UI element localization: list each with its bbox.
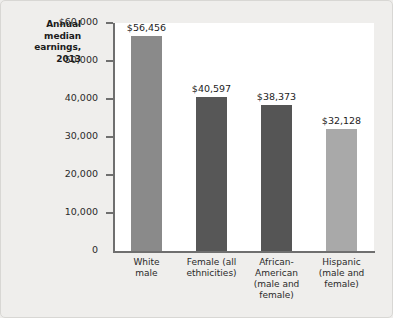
y-tick-label: 20,000 xyxy=(6,169,98,179)
y-tick-label: 0 xyxy=(6,245,98,255)
x-category-label-line: American xyxy=(241,268,313,279)
bar-value-label: $56,456 xyxy=(107,22,187,33)
x-category-label: Female (allethnicities) xyxy=(176,257,248,279)
bar xyxy=(196,97,227,251)
y-tick-mark xyxy=(106,60,113,62)
bar xyxy=(261,105,292,251)
x-category-label-line: Female (all xyxy=(176,257,248,268)
x-category-label: African-American(male andfemale) xyxy=(241,257,313,301)
x-category-label-line: female) xyxy=(306,279,378,290)
y-tick-label: 10,000 xyxy=(6,207,98,217)
x-category-label-line: (male and xyxy=(306,268,378,279)
bar-value-label: $38,373 xyxy=(237,91,317,102)
y-tick-mark xyxy=(106,174,113,176)
y-axis-line xyxy=(113,23,115,252)
x-category-label-line: African- xyxy=(241,257,313,268)
bar xyxy=(131,36,162,251)
y-tick-label: $60,000 xyxy=(6,17,98,27)
y-axis-title-line-2: median xyxy=(7,31,81,43)
x-category-label: Whitemale xyxy=(111,257,183,279)
x-axis-line xyxy=(113,251,375,253)
y-axis-title-line-3: earnings, xyxy=(7,42,81,54)
x-category-label-line: White xyxy=(111,257,183,268)
x-category-label: Hispanic(male andfemale) xyxy=(306,257,378,290)
x-category-label-line: ethnicities) xyxy=(176,268,248,279)
x-category-label-line: male xyxy=(111,268,183,279)
x-category-label-line: female) xyxy=(241,290,313,301)
x-category-label-line: Hispanic xyxy=(306,257,378,268)
x-category-label-line: (male and xyxy=(241,279,313,290)
bar-value-label: $32,128 xyxy=(302,115,382,126)
bar xyxy=(326,129,357,251)
y-tick-label: 40,000 xyxy=(6,93,98,103)
y-tick-mark xyxy=(106,136,113,138)
y-tick-label: 50,000 xyxy=(6,55,98,65)
y-tick-mark xyxy=(106,212,113,214)
y-tick-label: 30,000 xyxy=(6,131,98,141)
y-tick-mark xyxy=(106,98,113,100)
chart-figure: Annual median earnings, 2013 $60,00050,0… xyxy=(0,0,393,318)
